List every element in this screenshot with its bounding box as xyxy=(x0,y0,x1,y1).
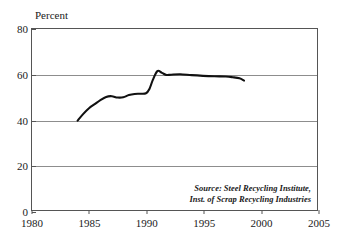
x-tick-mark-2005 xyxy=(319,210,320,214)
x-tick-label-1995: 1995 xyxy=(193,217,215,229)
x-tick-mark-2000 xyxy=(261,210,262,214)
series-line-steel-recycling-rate xyxy=(78,71,244,121)
y-tick-label-0: 0 xyxy=(23,207,29,218)
y-tick-mark-0 xyxy=(32,212,36,213)
x-tick-label-2005: 2005 xyxy=(308,217,330,229)
y-tick-label-20: 20 xyxy=(17,161,28,172)
x-tick-label-1980: 1980 xyxy=(21,217,43,229)
x-tick-mark-1985 xyxy=(89,210,90,214)
plot-area: 020406080 198019851990199520002005 Sourc… xyxy=(31,28,318,211)
x-tick-mark-1990 xyxy=(146,210,147,214)
x-tick-label-1990: 1990 xyxy=(136,217,158,229)
x-tick-label-2000: 2000 xyxy=(251,217,273,229)
source-note-line-2: Inst. of Scrap Recycling Industries xyxy=(189,194,311,205)
y-tick-label-40: 40 xyxy=(17,115,28,126)
chart-figure: Percent 020406080 1980198519901995200020… xyxy=(0,0,347,243)
y-tick-label-80: 80 xyxy=(17,24,28,35)
x-tick-mark-1995 xyxy=(204,210,205,214)
y-axis-unit-label: Percent xyxy=(35,9,68,21)
x-tick-label-1985: 1985 xyxy=(78,217,100,229)
x-tick-mark-1980 xyxy=(32,210,33,214)
source-note-line-1: Source: Steel Recycling Institute, xyxy=(189,183,311,194)
y-tick-label-60: 60 xyxy=(17,69,28,80)
source-note: Source: Steel Recycling Institute, Inst.… xyxy=(189,183,311,204)
